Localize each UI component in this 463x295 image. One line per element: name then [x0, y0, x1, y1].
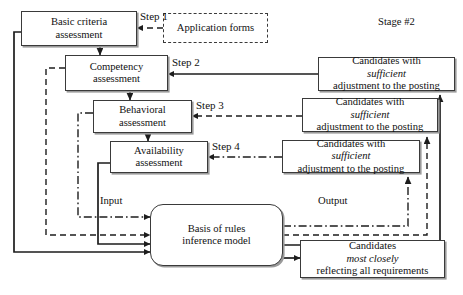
- availability-line1: Availability: [134, 145, 184, 158]
- cand1-line2: adjustment to the posting: [333, 80, 440, 93]
- inference-model-line1: Basis of rules: [182, 223, 251, 236]
- stage-label: Stage #2: [378, 16, 415, 27]
- cand3-line2: adjustment to the posting: [298, 163, 405, 176]
- step-4-label: Step 4: [212, 140, 240, 152]
- input-label: Input: [100, 195, 122, 206]
- process-box-basic-criteria: Basic criteria assessment: [21, 11, 137, 46]
- output-label: Output: [318, 195, 347, 206]
- process-box-behavioral: Behavioral assessment: [93, 100, 192, 133]
- inference-model-box: Basis of rules inference model: [150, 204, 283, 266]
- final-output-line1: Candidates most closely: [317, 240, 429, 265]
- inference-model-line2: inference model: [182, 235, 251, 248]
- candidates-sufficient-box-3: Candidates with sufficient adjustment to…: [282, 140, 420, 173]
- cand3-line1: Candidates with sufficient: [298, 138, 405, 163]
- cand1-line1: Candidates with sufficient: [333, 55, 440, 80]
- basic-criteria-line2: assessment: [51, 29, 107, 42]
- process-box-competency: Competency assessment: [65, 55, 168, 91]
- competency-line1: Competency: [90, 61, 144, 74]
- final-output-line2: reflecting all requirements: [317, 265, 429, 278]
- cand2-line2: adjustment to the posting: [317, 121, 424, 134]
- cand2-line1: Candidates with sufficient: [317, 96, 424, 121]
- step-2-label: Step 2: [172, 56, 200, 68]
- final-output-box: Candidates most closely reflecting all r…: [300, 240, 445, 278]
- application-forms-box: Application forms: [163, 13, 268, 43]
- step-1-label: Step 1: [140, 10, 168, 22]
- step-3-label: Step 3: [196, 99, 224, 111]
- availability-line2: assessment: [134, 157, 184, 170]
- behavioral-line1: Behavioral: [119, 104, 166, 117]
- competency-line2: assessment: [90, 73, 144, 86]
- process-box-availability: Availability assessment: [110, 141, 208, 173]
- application-forms-label: Application forms: [177, 22, 254, 35]
- candidates-sufficient-box-1: Candidates with sufficient adjustment to…: [318, 57, 455, 91]
- flowchart-diagram: Stage #2 Application forms Step 1 Step 2…: [0, 0, 463, 295]
- behavioral-line2: assessment: [119, 117, 166, 130]
- candidates-sufficient-box-2: Candidates with sufficient adjustment to…: [302, 98, 438, 132]
- basic-criteria-line1: Basic criteria: [51, 16, 107, 29]
